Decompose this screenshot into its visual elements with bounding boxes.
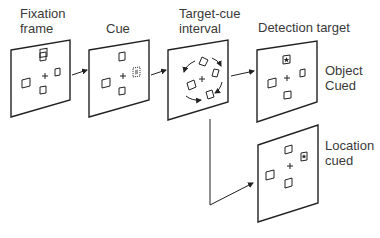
panel-location-cued <box>258 125 318 222</box>
arrow-fixation-to-cue <box>72 70 87 75</box>
fixation-cross <box>287 163 293 169</box>
placeholder-square-right <box>55 68 60 76</box>
fixation-cross <box>284 75 290 81</box>
fixation-cross <box>120 73 126 79</box>
placeholder-square-bottom <box>119 87 125 95</box>
panel-target-cue-interval <box>168 40 228 120</box>
placeholder-square-right <box>300 69 305 77</box>
rotation-arrow-4 <box>186 96 201 100</box>
rotation-arrow-1 <box>184 61 195 72</box>
placeholder-square-top <box>119 52 125 61</box>
rotated-square-bottom <box>206 90 214 99</box>
placeholder-square-bottom <box>40 86 46 94</box>
rotation-arrow-2 <box>212 58 221 66</box>
target-star-icon <box>284 57 290 62</box>
rotation-arrow-3 <box>215 82 222 93</box>
rotated-square-left <box>187 80 196 90</box>
panel-cue <box>89 40 149 117</box>
rotated-square-top <box>199 57 208 66</box>
arrow-interval-to-location-cued <box>210 119 253 205</box>
cued-square-fill <box>135 70 138 75</box>
panel-object-cued <box>257 41 317 122</box>
placeholder-square-bottom <box>284 91 291 99</box>
diagram-canvas <box>0 0 380 238</box>
arrow-interval-to-object-cued <box>231 71 254 76</box>
placeholder-square-top <box>285 145 292 154</box>
placeholder-square-left <box>266 170 274 180</box>
fixation-cross <box>199 76 205 82</box>
target-star-icon <box>302 154 307 159</box>
fixation-cross <box>42 73 48 79</box>
placeholder-square-left <box>22 78 30 88</box>
panel-fixation-frame <box>11 40 70 117</box>
arrow-cue-to-interval <box>151 70 166 75</box>
placeholder-square-bottom <box>285 178 292 188</box>
rotated-square-right <box>212 69 219 77</box>
placeholder-square-left <box>268 78 276 88</box>
placeholder-square-left <box>102 78 110 88</box>
